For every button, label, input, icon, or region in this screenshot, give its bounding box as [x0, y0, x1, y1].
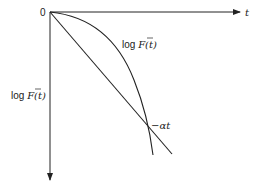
y-axis-label: log F(t) — [11, 90, 46, 101]
origin-label: 0 — [40, 7, 46, 18]
line-label: −αt — [151, 120, 171, 131]
log-survival-curve — [50, 12, 153, 155]
curve-label: log F(t) — [122, 39, 157, 50]
linear-line — [50, 12, 172, 154]
diagram-canvas: 0 t log F(t) log F(t) −αt — [0, 0, 258, 190]
x-axis-label: t — [245, 7, 250, 18]
